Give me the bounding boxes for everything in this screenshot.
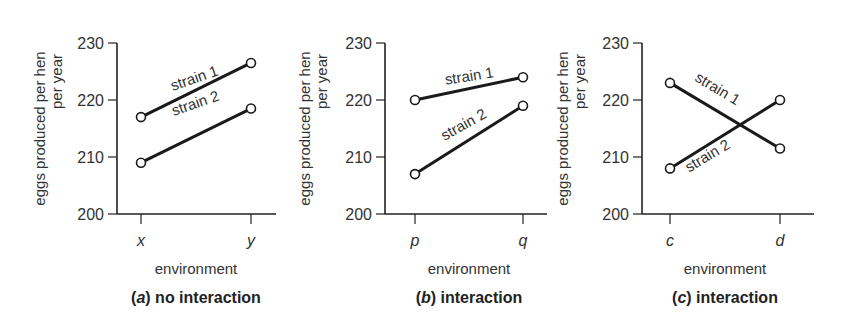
y-tick-label: 210 — [77, 149, 104, 166]
x-category-label: y — [246, 232, 256, 249]
y-tick-label: 210 — [345, 149, 372, 166]
y-axis-title: per year — [571, 54, 588, 109]
x-axis-title: environment — [155, 260, 238, 277]
x-category-label: d — [776, 232, 786, 249]
data-point-marker — [137, 158, 146, 167]
y-tick-label: 210 — [602, 149, 629, 166]
x-category-label: p — [410, 232, 420, 249]
chart-canvas: eggs produced per henper year20021022023… — [0, 0, 843, 334]
caption-paren-close: ) — [145, 289, 155, 306]
data-point-marker — [137, 113, 146, 122]
data-point-marker — [247, 58, 256, 67]
chart-panel-c: eggs produced per henper year20021022023… — [554, 35, 814, 306]
x-axis-title: environment — [428, 260, 511, 277]
chart-panel-a: eggs produced per henper year20021022023… — [31, 35, 276, 306]
x-category-label: q — [519, 232, 528, 249]
y-tick-label: 200 — [77, 206, 104, 223]
data-point-marker — [519, 73, 528, 82]
series-label: strain 2 — [682, 135, 733, 175]
caption-text: interaction — [441, 289, 523, 306]
data-point-marker — [666, 164, 675, 173]
x-category-label: x — [136, 232, 146, 249]
data-point-marker — [776, 96, 785, 105]
data-point-marker — [666, 78, 675, 87]
y-axis-title: eggs produced per hen — [296, 51, 313, 205]
y-axis-title: eggs produced per hen — [554, 51, 571, 205]
y-tick-label: 220 — [77, 92, 104, 109]
panel-caption: (c) interaction — [672, 289, 778, 306]
figure-three-panel-interaction-plots: eggs produced per henper year20021022023… — [0, 0, 843, 334]
series-label: strain 2 — [438, 105, 489, 144]
y-tick-label: 200 — [602, 206, 629, 223]
panel-caption: (b) interaction — [416, 289, 523, 306]
data-point-marker — [247, 104, 256, 113]
y-tick-label: 230 — [602, 35, 629, 52]
y-tick-label: 220 — [345, 92, 372, 109]
data-point-marker — [519, 101, 528, 110]
x-category-label: c — [666, 232, 674, 249]
caption-paren-close: ) — [686, 289, 696, 306]
y-axis-title: eggs produced per hen — [31, 51, 48, 205]
y-tick-label: 230 — [77, 35, 104, 52]
caption-letter: c — [677, 289, 686, 306]
panel-caption: (a) no interaction — [131, 289, 261, 306]
y-axis-title: per year — [313, 54, 330, 109]
caption-text: interaction — [696, 289, 778, 306]
caption-letter: a — [136, 289, 145, 306]
caption-text: no interaction — [155, 289, 261, 306]
caption-letter: b — [421, 289, 431, 306]
data-point-marker — [776, 144, 785, 153]
data-point-marker — [411, 96, 420, 105]
chart-panel-b: eggs produced per henper year20021022023… — [296, 35, 547, 306]
y-tick-label: 230 — [345, 35, 372, 52]
series-line-strain-2 — [141, 109, 251, 163]
y-tick-label: 220 — [602, 92, 629, 109]
x-axis-title: environment — [684, 260, 767, 277]
y-axis-title: per year — [48, 54, 65, 109]
data-point-marker — [411, 170, 420, 179]
caption-paren-close: ) — [431, 289, 441, 306]
y-tick-label: 200 — [345, 206, 372, 223]
